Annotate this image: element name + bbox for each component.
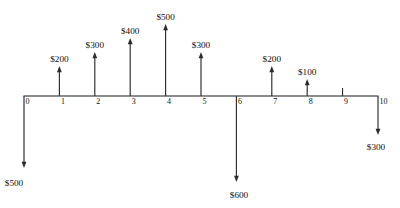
amount-label-0: $500 bbox=[5, 178, 24, 188]
amount-label-2: $300 bbox=[86, 40, 105, 50]
tick-label-2: 2 bbox=[96, 97, 100, 106]
cash-flow-svg: 012345678910 $500$200$300$400$500$300$60… bbox=[0, 0, 400, 208]
tick-label-10: 10 bbox=[380, 97, 388, 106]
amount-label-8: $100 bbox=[298, 67, 317, 77]
cash-inflow-arrowhead-1 bbox=[57, 66, 62, 72]
tick-label-7: 7 bbox=[273, 97, 277, 106]
tick-label-1: 1 bbox=[61, 97, 65, 106]
tick-label-5: 5 bbox=[203, 97, 207, 106]
amount-label-10: $300 bbox=[367, 142, 386, 152]
cash-flow-diagram: 012345678910 $500$200$300$400$500$300$60… bbox=[0, 0, 400, 208]
cash-inflow-arrowhead-8 bbox=[305, 79, 310, 85]
cash-inflow-arrowhead-2 bbox=[92, 52, 97, 58]
amount-label-6: $600 bbox=[230, 190, 249, 200]
cash-inflow-arrowhead-5 bbox=[199, 52, 204, 58]
tick-label-4: 4 bbox=[167, 97, 171, 106]
cash-outflow-arrowhead-10 bbox=[376, 129, 381, 135]
cash-outflow-arrowhead-6 bbox=[234, 176, 239, 182]
tick-label-0: 0 bbox=[26, 97, 30, 106]
tick-label-9: 9 bbox=[344, 97, 348, 106]
tick-label-3: 3 bbox=[132, 97, 136, 106]
cash-inflow-arrowhead-3 bbox=[128, 38, 133, 44]
amount-label-5: $300 bbox=[192, 40, 211, 50]
amount-label-3: $400 bbox=[121, 26, 140, 36]
cash-inflow-arrowhead-4 bbox=[163, 24, 168, 30]
cash-inflow-arrowhead-7 bbox=[269, 66, 274, 72]
amount-label-4: $500 bbox=[156, 12, 175, 22]
tick-label-6: 6 bbox=[238, 97, 242, 106]
amount-label-7: $200 bbox=[263, 54, 282, 64]
tick-label-8: 8 bbox=[309, 97, 313, 106]
tick-labels-group: 012345678910 bbox=[26, 97, 388, 106]
cash-outflow-arrowhead-0 bbox=[22, 162, 27, 168]
amount-label-1: $200 bbox=[50, 54, 69, 64]
